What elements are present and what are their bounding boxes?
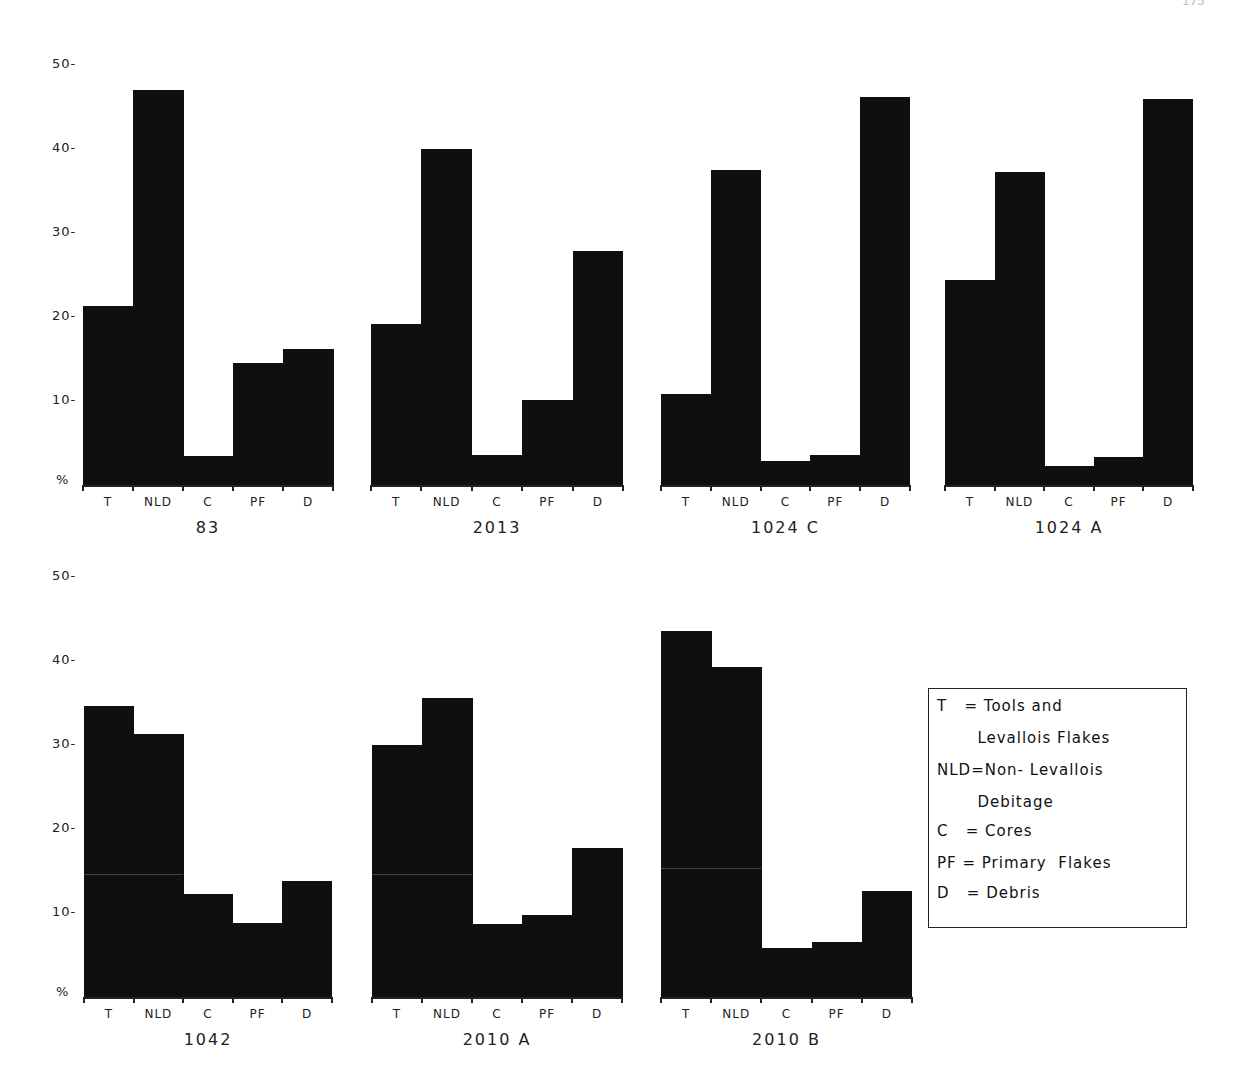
category-label: NLD xyxy=(711,495,761,509)
panel-title: 83 xyxy=(83,518,333,537)
bar-c xyxy=(1044,466,1094,485)
category-label: D xyxy=(282,1007,332,1021)
bar-pf xyxy=(522,400,573,485)
category-label: NLD xyxy=(995,495,1045,509)
y-tick-label: 20- xyxy=(52,820,76,835)
y-tick-label: 40- xyxy=(52,140,76,155)
x-tick xyxy=(622,485,624,491)
bar-pf xyxy=(522,915,573,997)
x-tick xyxy=(1142,485,1144,491)
category-label: T xyxy=(945,495,995,509)
bar-nld xyxy=(133,90,184,485)
x-tick xyxy=(660,997,662,1003)
x-tick xyxy=(572,485,574,491)
x-axis xyxy=(371,485,623,487)
x-tick xyxy=(281,997,283,1003)
x-tick xyxy=(182,485,184,491)
legend-line-nld-cont: Debitage xyxy=(937,793,1054,811)
legend-line-t-cont: Levallois Flakes xyxy=(937,729,1110,747)
category-label: PF xyxy=(810,495,860,509)
x-tick xyxy=(332,485,334,491)
bar-c xyxy=(183,456,234,485)
bar-t xyxy=(661,631,712,997)
legend-line-c: C = Cores xyxy=(937,822,1033,840)
category-label: PF xyxy=(522,495,572,509)
bar-pf xyxy=(1094,457,1144,485)
bar-d xyxy=(862,891,913,997)
x-tick xyxy=(420,485,422,491)
category-label: T xyxy=(661,495,711,509)
category-label: T xyxy=(372,1007,422,1021)
category-label: C xyxy=(472,1007,522,1021)
bar-d xyxy=(860,97,910,485)
category-label: D xyxy=(572,1007,622,1021)
bar-t xyxy=(83,306,134,485)
bar-t xyxy=(84,706,134,997)
x-tick xyxy=(282,485,284,491)
x-tick xyxy=(944,485,946,491)
bar-c xyxy=(472,924,523,997)
x-tick xyxy=(421,997,423,1003)
bar-t xyxy=(372,745,423,997)
x-axis xyxy=(661,997,912,999)
bar-nld xyxy=(711,667,762,997)
x-tick xyxy=(760,997,762,1003)
category-label: NLD xyxy=(422,1007,472,1021)
x-tick xyxy=(232,485,234,491)
x-axis xyxy=(83,485,333,487)
x-tick xyxy=(521,485,523,491)
panel-title: 1024 A xyxy=(945,518,1193,537)
category-label: PF xyxy=(812,1007,862,1021)
x-axis xyxy=(84,997,332,999)
y-tick-label: 50- xyxy=(52,568,76,583)
x-tick xyxy=(909,485,911,491)
x-tick xyxy=(370,485,372,491)
x-tick xyxy=(994,485,996,491)
bar-c xyxy=(761,948,812,997)
y-tick-label: 50- xyxy=(52,56,76,71)
legend-line-nld: NLD=Non- Levallois xyxy=(937,761,1104,779)
bar-d xyxy=(573,251,624,485)
legend-line-d: D = Debris xyxy=(937,884,1041,902)
x-tick xyxy=(660,485,662,491)
x-tick xyxy=(521,997,523,1003)
x-tick xyxy=(621,997,623,1003)
bar-c xyxy=(472,455,523,485)
scan-artifact-line xyxy=(372,874,472,875)
bar-d xyxy=(283,349,334,485)
x-tick xyxy=(859,485,861,491)
bar-t xyxy=(945,280,995,485)
bar-pf xyxy=(812,942,863,997)
panel-title: 1042 xyxy=(84,1030,332,1049)
bar-t xyxy=(661,394,711,485)
category-label: C xyxy=(761,495,811,509)
x-tick xyxy=(471,997,473,1003)
x-tick xyxy=(1192,485,1194,491)
category-label: C xyxy=(1044,495,1094,509)
bar-nld xyxy=(422,698,473,997)
bar-nld xyxy=(134,734,184,997)
y-tick-label: 30- xyxy=(52,736,76,751)
x-tick xyxy=(710,485,712,491)
bar-nld xyxy=(995,172,1045,485)
category-label: C xyxy=(183,1007,233,1021)
x-tick xyxy=(132,485,134,491)
category-label: T xyxy=(83,495,133,509)
bar-c xyxy=(183,894,233,997)
category-label: T xyxy=(84,1007,134,1021)
x-tick xyxy=(331,997,333,1003)
x-tick xyxy=(133,997,135,1003)
x-tick xyxy=(471,485,473,491)
x-tick xyxy=(182,997,184,1003)
bar-nld xyxy=(421,149,472,485)
y-tick-label: 10- xyxy=(52,392,76,407)
x-axis xyxy=(372,997,622,999)
legend-box: T = Tools and Levallois Flakes NLD=Non- … xyxy=(928,688,1187,928)
category-label: C xyxy=(183,495,233,509)
y-tick-label: 20- xyxy=(52,308,76,323)
category-label: T xyxy=(371,495,421,509)
bar-d xyxy=(572,848,623,997)
bar-nld xyxy=(711,170,761,485)
x-tick xyxy=(1043,485,1045,491)
category-label: T xyxy=(661,1007,711,1021)
